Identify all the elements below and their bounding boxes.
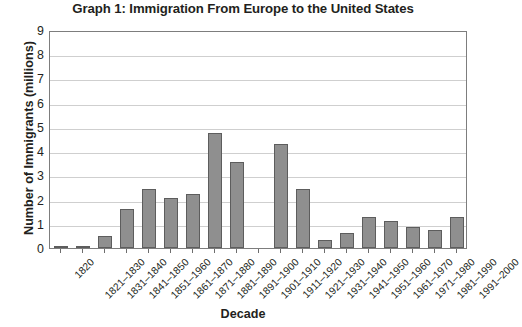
- x-axis-tick-mark: [346, 249, 347, 253]
- bar: [54, 246, 68, 248]
- x-axis-tick-mark: [434, 249, 435, 253]
- y-axis-tick-label: 5: [4, 122, 44, 134]
- y-axis-tick-label: 3: [4, 170, 44, 182]
- x-axis-tick-mark: [412, 249, 413, 253]
- x-axis-tick-mark: [192, 249, 193, 253]
- bar: [384, 221, 398, 248]
- bar: [362, 217, 376, 248]
- y-axis-tick-label: 1: [4, 219, 44, 231]
- x-axis-tick-mark: [280, 249, 281, 253]
- x-axis-tick-mark: [456, 249, 457, 253]
- y-axis-tick-label: 6: [4, 98, 44, 110]
- x-axis-title: Decade: [0, 307, 486, 321]
- bar: [296, 189, 310, 248]
- x-axis-tick-mark: [82, 249, 83, 253]
- bar: [318, 240, 332, 248]
- y-axis-tick-labels: 9876543210: [0, 31, 44, 249]
- x-axis-tick-mark: [148, 249, 149, 253]
- y-axis-tick-label: 4: [4, 146, 44, 158]
- y-axis-tick-label: 0: [4, 243, 44, 255]
- bar: [450, 217, 464, 248]
- bar: [230, 162, 244, 248]
- x-axis-tick-mark: [368, 249, 369, 253]
- bar: [186, 194, 200, 249]
- y-axis-tick-label: 9: [4, 25, 44, 37]
- bar: [340, 233, 354, 248]
- x-axis-tick-mark: [302, 249, 303, 253]
- x-axis-tick-label-text: 1820: [72, 256, 96, 280]
- bar: [428, 230, 442, 248]
- x-axis-tick-label: 1820: [74, 255, 98, 279]
- x-axis-tick-mark: [126, 249, 127, 253]
- x-axis-tick-mark: [104, 249, 105, 253]
- bar: [142, 189, 156, 248]
- bar: [76, 246, 90, 248]
- x-axis-tick-mark: [258, 249, 259, 253]
- bar: [406, 227, 420, 248]
- x-axis-tick-mark: [236, 249, 237, 253]
- bar: [164, 198, 178, 248]
- y-axis-tick-label: 8: [4, 49, 44, 61]
- x-axis-tick-mark: [214, 249, 215, 253]
- x-axis-tick-mark: [170, 249, 171, 253]
- y-axis-tick-label: 2: [4, 195, 44, 207]
- bar: [274, 144, 288, 248]
- bar: [120, 209, 134, 248]
- y-axis-tick-label: 7: [4, 73, 44, 85]
- bar: [208, 133, 222, 248]
- plot-area: [49, 31, 467, 249]
- x-axis-tick-mark: [390, 249, 391, 253]
- bar-series: [50, 32, 466, 248]
- chart-title: Graph 1: Immigration From Europe to the …: [0, 1, 486, 16]
- x-axis-tick-mark: [60, 249, 61, 253]
- bar: [98, 236, 112, 248]
- x-axis-tick-mark: [324, 249, 325, 253]
